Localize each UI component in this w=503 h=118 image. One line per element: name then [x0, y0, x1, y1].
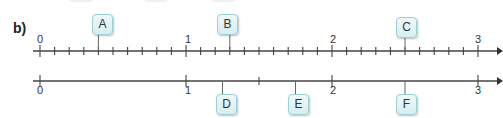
bottom-label-2: 2 [330, 84, 336, 96]
marker-e: E [288, 94, 309, 115]
marker-b: B [217, 14, 238, 35]
bottom-label-0: 0 [37, 84, 43, 96]
top-label-3: 3 [475, 33, 481, 45]
marker-d: D [216, 94, 237, 115]
top-label-2: 2 [330, 33, 336, 45]
bottom-label-3: 3 [475, 84, 481, 96]
top-label-1: 1 [185, 33, 191, 45]
number-lines [0, 0, 503, 118]
top-label-0: 0 [37, 33, 43, 45]
marker-a: A [92, 14, 113, 35]
marker-f: F [396, 94, 417, 115]
marker-c: C [396, 17, 417, 38]
bottom-label-1: 1 [185, 84, 191, 96]
